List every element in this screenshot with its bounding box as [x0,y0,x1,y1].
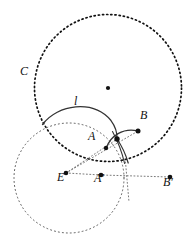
label-A-prime: A′ [94,172,104,184]
label-C: C [20,65,28,77]
ray-E-to-B [66,131,139,174]
ray-vertical-through-A-prime [126,162,130,202]
point-arc-top [114,136,119,141]
point-A [104,146,108,150]
label-B: B [140,109,147,121]
arc-l [43,107,118,139]
label-A: A [88,130,95,142]
label-l: l [74,95,77,107]
point-center-C [106,86,110,90]
geometry-canvas [0,0,190,252]
arc-A-to-B [107,130,138,147]
label-B-prime: B′ [163,176,173,188]
point-E [64,171,69,176]
circle-E [14,123,124,233]
ray-E-to-A-prime-to-B-prime [66,173,170,177]
geometry-figure: C l A B E A′ B′ [0,0,190,252]
ray-E-through-A [66,139,118,174]
point-B [136,129,141,134]
label-E: E [57,171,64,183]
